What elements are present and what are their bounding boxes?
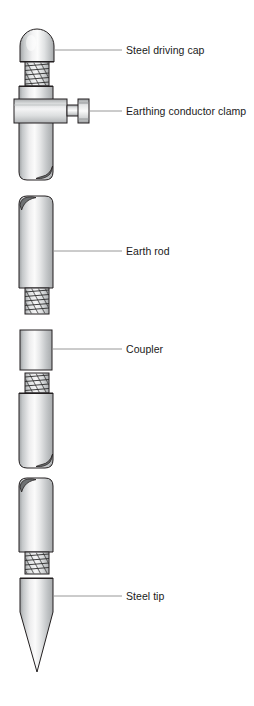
coupler-shape [20,330,52,370]
steel-tip-shape [20,578,53,672]
earth-rod-upper-shape [19,196,53,288]
cap-thread-shape [25,62,49,86]
label-coupler: Coupler [126,343,163,355]
earth-rod-middle-thread-shape [25,373,49,393]
label-earthing-conductor-clamp: Earthing conductor clamp [126,105,246,117]
earth-rod-lower-thread-shape [25,552,49,574]
label-steel-tip: Steel tip [126,590,164,602]
earth-rod-middle-shape [19,393,53,468]
earth-rod-diagram: Steel driving cap Earthing conductor cla… [0,0,254,706]
leader-lines [52,50,122,596]
steel-driving-cap-shape [20,29,54,62]
earth-rod-lower-shape [19,478,53,552]
earthing-conductor-clamp-shape [14,99,67,123]
earth-rod-upper-thread-shape [25,288,49,314]
label-earth-rod: Earth rod [126,245,170,257]
label-steel-driving-cap: Steel driving cap [126,44,204,56]
clamp-bolt-shape [67,99,89,123]
